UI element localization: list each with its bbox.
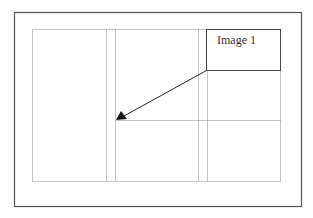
image-1-label: Image 1 — [217, 33, 256, 48]
layout-diagram — [0, 0, 313, 218]
move-arrow — [124, 71, 207, 117]
